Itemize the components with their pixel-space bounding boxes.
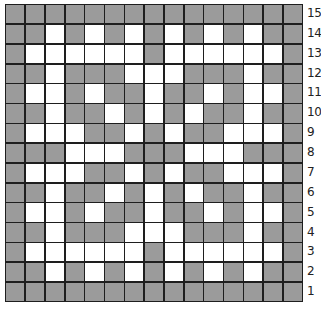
shaded-cell bbox=[66, 283, 84, 301]
shaded-cell bbox=[244, 283, 262, 301]
unshaded-cell bbox=[165, 65, 183, 83]
unshaded-cell bbox=[46, 65, 64, 83]
shaded-cell bbox=[26, 25, 44, 43]
shaded-cell bbox=[224, 65, 242, 83]
unshaded-cell bbox=[165, 124, 183, 142]
shaded-cell bbox=[224, 25, 242, 43]
shaded-cell bbox=[185, 84, 203, 102]
shaded-cell bbox=[284, 5, 302, 23]
unshaded-cell bbox=[46, 203, 64, 221]
shaded-cell bbox=[185, 263, 203, 281]
unshaded-cell bbox=[85, 84, 103, 102]
row-label: 6 bbox=[307, 183, 321, 203]
unshaded-cell bbox=[26, 243, 44, 261]
unshaded-cell bbox=[46, 84, 64, 102]
shaded-cell bbox=[6, 203, 24, 221]
shaded-cell bbox=[85, 223, 103, 241]
shaded-cell bbox=[26, 65, 44, 83]
pattern-chart-grid bbox=[5, 4, 303, 302]
unshaded-cell bbox=[244, 104, 262, 122]
shaded-cell bbox=[284, 25, 302, 43]
shaded-cell bbox=[105, 283, 123, 301]
unshaded-cell bbox=[85, 263, 103, 281]
shaded-cell bbox=[204, 283, 222, 301]
shaded-cell bbox=[224, 223, 242, 241]
shaded-cell bbox=[284, 124, 302, 142]
unshaded-cell bbox=[66, 164, 84, 182]
shaded-cell bbox=[66, 65, 84, 83]
row-label: 12 bbox=[307, 64, 321, 84]
shaded-cell bbox=[105, 25, 123, 43]
unshaded-cell bbox=[244, 65, 262, 83]
shaded-cell bbox=[105, 65, 123, 83]
unshaded-cell bbox=[224, 45, 242, 63]
unshaded-cell bbox=[66, 45, 84, 63]
shaded-cell bbox=[284, 45, 302, 63]
shaded-cell bbox=[125, 104, 143, 122]
shaded-cell bbox=[284, 283, 302, 301]
shaded-cell bbox=[26, 283, 44, 301]
shaded-cell bbox=[165, 144, 183, 162]
shaded-cell bbox=[224, 5, 242, 23]
unshaded-cell bbox=[145, 184, 163, 202]
shaded-cell bbox=[85, 164, 103, 182]
row-label: 7 bbox=[307, 163, 321, 183]
shaded-cell bbox=[145, 243, 163, 261]
unshaded-cell bbox=[105, 243, 123, 261]
shaded-cell bbox=[105, 203, 123, 221]
shaded-cell bbox=[6, 45, 24, 63]
shaded-cell bbox=[6, 124, 24, 142]
unshaded-cell bbox=[165, 223, 183, 241]
shaded-cell bbox=[6, 25, 24, 43]
shaded-cell bbox=[105, 164, 123, 182]
shaded-cell bbox=[66, 203, 84, 221]
unshaded-cell bbox=[105, 144, 123, 162]
shaded-cell bbox=[145, 124, 163, 142]
unshaded-cell bbox=[125, 25, 143, 43]
unshaded-cell bbox=[145, 84, 163, 102]
shaded-cell bbox=[66, 184, 84, 202]
shaded-cell bbox=[85, 184, 103, 202]
shaded-cell bbox=[224, 203, 242, 221]
shaded-cell bbox=[264, 263, 282, 281]
shaded-cell bbox=[224, 184, 242, 202]
shaded-cell bbox=[66, 5, 84, 23]
unshaded-cell bbox=[125, 124, 143, 142]
unshaded-cell bbox=[244, 84, 262, 102]
unshaded-cell bbox=[244, 243, 262, 261]
shaded-cell bbox=[165, 104, 183, 122]
shaded-cell bbox=[204, 184, 222, 202]
unshaded-cell bbox=[204, 45, 222, 63]
unshaded-cell bbox=[46, 124, 64, 142]
unshaded-cell bbox=[46, 164, 64, 182]
shaded-cell bbox=[26, 104, 44, 122]
shaded-cell bbox=[145, 164, 163, 182]
unshaded-cell bbox=[185, 104, 203, 122]
unshaded-cell bbox=[264, 243, 282, 261]
unshaded-cell bbox=[204, 203, 222, 221]
shaded-cell bbox=[264, 223, 282, 241]
shaded-cell bbox=[145, 263, 163, 281]
shaded-cell bbox=[26, 184, 44, 202]
shaded-cell bbox=[145, 25, 163, 43]
unshaded-cell bbox=[66, 124, 84, 142]
unshaded-cell bbox=[105, 184, 123, 202]
unshaded-cell bbox=[264, 124, 282, 142]
shaded-cell bbox=[85, 5, 103, 23]
shaded-cell bbox=[85, 104, 103, 122]
shaded-cell bbox=[125, 283, 143, 301]
unshaded-cell bbox=[26, 164, 44, 182]
shaded-cell bbox=[6, 184, 24, 202]
unshaded-cell bbox=[46, 243, 64, 261]
row-label: 14 bbox=[307, 24, 321, 44]
shaded-cell bbox=[284, 184, 302, 202]
shaded-cell bbox=[145, 144, 163, 162]
shaded-cell bbox=[264, 104, 282, 122]
shaded-cell bbox=[145, 5, 163, 23]
shaded-cell bbox=[145, 283, 163, 301]
shaded-cell bbox=[6, 223, 24, 241]
shaded-cell bbox=[66, 25, 84, 43]
row-label: 11 bbox=[307, 83, 321, 103]
shaded-cell bbox=[224, 104, 242, 122]
unshaded-cell bbox=[145, 223, 163, 241]
